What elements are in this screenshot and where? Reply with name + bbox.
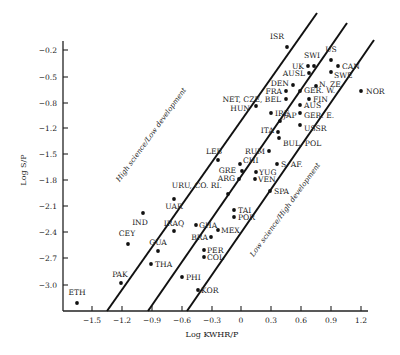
point-label: GER. W. <box>304 86 335 95</box>
data-point: IND <box>132 211 148 227</box>
point-marker <box>172 197 176 201</box>
point-label: BRA <box>191 233 208 242</box>
point-label: HUN <box>230 104 250 113</box>
point-marker <box>284 89 288 93</box>
point-marker <box>329 70 333 74</box>
x-tick-label: −1.2 <box>113 316 131 325</box>
point-marker <box>298 89 302 93</box>
point-label: CEY <box>119 229 136 238</box>
point-marker <box>268 189 272 193</box>
point-marker <box>336 64 340 68</box>
point-marker <box>149 262 153 266</box>
y-axis-label: Log S/P <box>19 154 28 186</box>
point-marker <box>312 64 316 68</box>
point-label: NOR <box>366 87 385 96</box>
point-label: GHA <box>199 221 218 230</box>
x-tick-label: −0.9 <box>143 316 161 325</box>
data-point: UAR <box>165 197 183 211</box>
point-marker <box>194 223 198 227</box>
point-marker <box>254 104 258 108</box>
point-label: URU, CO. RI. <box>172 181 222 190</box>
data-point: BUL, POL <box>277 136 321 148</box>
point-label: GUA <box>149 238 167 247</box>
data-point: CEY <box>119 229 136 246</box>
point-label: ISR <box>270 32 284 41</box>
point-label: KOR <box>201 286 219 295</box>
point-label: THA <box>155 260 173 269</box>
data-point: ISR <box>270 32 289 49</box>
point-marker <box>232 215 236 219</box>
data-point: AUS <box>298 101 321 110</box>
point-label: COL <box>207 253 224 262</box>
y-tick-label: −1.8 <box>39 176 57 185</box>
data-point: NET, CZE, BEL <box>222 95 287 104</box>
data-point: GER. W. <box>298 86 335 95</box>
point-label: SWE <box>334 71 353 80</box>
point-label: CHI <box>243 156 258 165</box>
x-tick-label: −1.5 <box>83 316 101 325</box>
point-marker <box>306 64 310 68</box>
data-point: GUA <box>149 238 167 253</box>
reference-lines <box>107 13 374 311</box>
data-point: RUM <box>245 147 271 156</box>
point-marker <box>269 111 273 115</box>
point-marker <box>226 192 230 196</box>
point-label: IND <box>132 218 148 227</box>
data-point: SWE <box>329 70 352 80</box>
data-point: URU, CO. RI. <box>172 181 230 196</box>
x-tick-label: 1.2 <box>355 316 367 325</box>
point-marker <box>232 208 236 212</box>
point-marker <box>238 162 242 166</box>
data-point: CHI <box>238 156 258 166</box>
point-label: PHI <box>186 273 201 282</box>
point-marker <box>267 149 271 153</box>
point-label: AUSL <box>282 69 305 78</box>
x-tick-label: −0.3 <box>203 316 221 325</box>
data-point: PAK <box>112 270 128 285</box>
data-point: AUSL <box>282 69 311 78</box>
y-tick-label: −2.7 <box>39 254 57 263</box>
point-marker <box>277 136 281 140</box>
x-tick-label: 0.3 <box>265 316 277 325</box>
point-marker <box>298 111 302 115</box>
data-point: COL <box>202 253 224 262</box>
point-label: LEB <box>206 147 223 156</box>
point-label: USSR <box>304 124 327 133</box>
data-point: NOR <box>359 87 385 96</box>
data-point: USSR <box>298 123 327 133</box>
band-label-upper: High science/Low development <box>113 86 188 185</box>
point-label: POR <box>238 213 255 222</box>
data-point: US <box>325 45 337 62</box>
point-marker <box>126 242 130 246</box>
point-marker <box>202 255 206 259</box>
point-label: US <box>325 45 337 54</box>
point-label: IRAQ <box>164 219 184 228</box>
point-label: SPA <box>274 187 290 196</box>
point-marker <box>240 169 244 173</box>
point-marker <box>284 97 288 101</box>
data-point: IRAQ <box>164 219 184 233</box>
point-marker <box>237 177 241 181</box>
point-label: JAP <box>282 111 297 120</box>
point-label: MEX <box>221 226 240 235</box>
point-marker <box>141 211 145 215</box>
scatter-chart: −0.2−0.5−0.8−1.2−1.5−1.8−2.1−2.4−2.7−3.0… <box>0 0 400 355</box>
y-tick-label: −0.2 <box>39 46 57 55</box>
point-label: ETH <box>68 288 86 297</box>
point-marker <box>275 162 279 166</box>
point-marker <box>291 83 295 87</box>
data-point: MEX <box>216 226 240 235</box>
y-tick-label: −3.0 <box>39 281 57 290</box>
point-marker <box>196 288 200 292</box>
data-point: GHA <box>194 221 218 230</box>
point-label: VEN <box>257 175 276 184</box>
point-label: BUL, POL <box>283 139 321 148</box>
point-label: S. AF. <box>281 160 303 169</box>
x-tick-label: 0 <box>239 316 244 325</box>
point-marker <box>307 71 311 75</box>
point-marker <box>172 229 176 233</box>
data-point: ETH <box>68 288 86 305</box>
y-tick-label: −1.5 <box>39 150 57 159</box>
point-marker <box>276 130 280 134</box>
point-marker <box>209 235 213 239</box>
